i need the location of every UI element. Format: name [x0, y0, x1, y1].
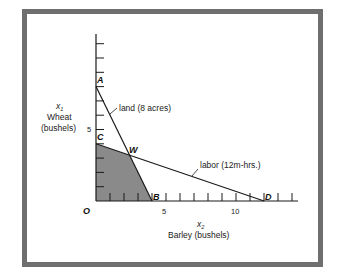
feasible-region: [96, 144, 152, 201]
labor-label: labor (12m-hrs.): [200, 160, 261, 170]
y-axis-unit: (bushels): [41, 123, 76, 133]
chart-canvas: land (8 acres) labor (12m-hrs.) A C W B …: [0, 0, 338, 278]
point-label-D: D: [265, 192, 272, 202]
y-tick-label-5: 5: [87, 125, 91, 134]
land-label: land (8 acres): [119, 103, 171, 113]
x-axis-symbol: x2: [196, 219, 204, 230]
land-leader: [110, 108, 117, 114]
point-label-B: B: [153, 192, 160, 202]
point-label-C: C: [97, 132, 104, 142]
y-axis-title: Wheat: [47, 112, 72, 122]
labor-leader: [192, 169, 198, 176]
point-label-A: A: [96, 75, 104, 85]
point-label-W: W: [129, 145, 139, 155]
x-axis-title: Barley (bushels): [168, 230, 230, 240]
y-axis-symbol: x1: [55, 101, 63, 112]
x-tick-label-5: 5: [162, 207, 166, 216]
x-tick-label-10: 10: [231, 207, 239, 216]
point-label-O: O: [83, 206, 90, 216]
